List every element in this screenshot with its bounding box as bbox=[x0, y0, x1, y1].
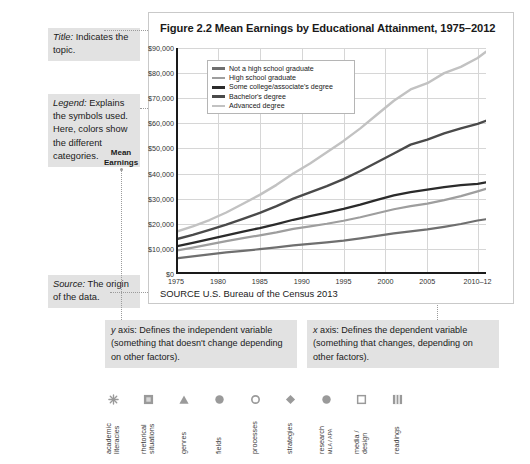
y-axis-tick-labels: $0$10,000$20,000$30,000$40,000$50,000$60… bbox=[136, 48, 174, 274]
y-tick-label: $60,000 bbox=[148, 119, 174, 128]
y-tick-label: $30,000 bbox=[148, 194, 174, 203]
legend-item: Advanced degree bbox=[212, 101, 350, 110]
legend-swatch bbox=[212, 67, 225, 70]
x-tick-label: 1975 bbox=[168, 277, 184, 286]
y-tick-label: $40,000 bbox=[148, 169, 174, 178]
legend-swatch bbox=[212, 77, 225, 80]
leader-dot-y-axis bbox=[120, 168, 123, 171]
y-tick-label: $80,000 bbox=[148, 69, 174, 78]
chart-legend: Not a high school graduateHigh school gr… bbox=[207, 60, 355, 114]
icon-strip: academic literaciesrhetorical situations… bbox=[0, 392, 530, 464]
legend-swatch bbox=[212, 86, 225, 89]
figure-page: Title: Indicates the topic. Legend: Expl… bbox=[0, 0, 530, 464]
x-tick-label: 2010–12 bbox=[464, 277, 492, 286]
legend-swatch bbox=[212, 105, 225, 108]
x-axis-line bbox=[176, 272, 486, 274]
strip-item-label: fields bbox=[215, 408, 223, 454]
leader-title bbox=[104, 30, 154, 31]
definition-x-axis: x axis: Defines the dependent variable (… bbox=[307, 320, 499, 368]
strip-item-label: rhetorical situations bbox=[140, 408, 157, 454]
strip-item-sublabel: MLA / APA bbox=[327, 429, 333, 454]
legend-swatch bbox=[212, 95, 225, 98]
strip-item-label: strategies bbox=[286, 408, 294, 454]
y-tick-label: $20,000 bbox=[148, 219, 174, 228]
strip-item-label: media / design bbox=[353, 408, 370, 454]
annotation-legend-term: Legend: bbox=[53, 98, 87, 108]
x-tick-label: 1980 bbox=[210, 277, 226, 286]
x-tick-label: 2000 bbox=[377, 277, 393, 286]
figure-source: SOURCE U.S. Bureau of the Census 2013 bbox=[160, 288, 338, 299]
definition-x-axis-text: axis: Defines the dependent variable (so… bbox=[313, 325, 473, 362]
leader-y-axis bbox=[121, 170, 122, 322]
y-tick-label: $50,000 bbox=[148, 144, 174, 153]
legend-item: Not a high school graduate bbox=[212, 64, 350, 73]
definition-y-axis: y axis: Defines the independent variable… bbox=[105, 320, 297, 368]
annotation-title: Title: Indicates the topic. bbox=[48, 28, 140, 61]
y-tick-label: $10,000 bbox=[148, 244, 174, 253]
striped-square-icon bbox=[374, 392, 420, 406]
x-tick-label: 1995 bbox=[336, 277, 352, 286]
strip-item-label: academic literacies bbox=[105, 408, 122, 454]
legend-label: High school graduate bbox=[229, 74, 296, 82]
legend-label: Not a high school graduate bbox=[229, 65, 314, 73]
legend-item: Bachelor's degree bbox=[212, 92, 350, 101]
figure-title: Figure 2.2 Mean Earnings by Educational … bbox=[160, 22, 505, 34]
strip-item-label: processes bbox=[251, 408, 259, 454]
legend-label: Bachelor's degree bbox=[229, 93, 286, 101]
y-tick-label: $90,000 bbox=[148, 44, 174, 53]
definition-y-axis-text: axis: Defines the independent variable (… bbox=[111, 325, 283, 362]
strip-item-label: genres bbox=[180, 408, 188, 454]
strip-item-label: readings bbox=[393, 408, 401, 454]
annotation-title-term: Title: bbox=[53, 32, 73, 42]
y-tick-label: $70,000 bbox=[148, 94, 174, 103]
x-tick-label: 1990 bbox=[294, 277, 310, 286]
x-tick-label: 2005 bbox=[419, 277, 435, 286]
x-tick-label: 1985 bbox=[252, 277, 268, 286]
legend-item: High school graduate bbox=[212, 73, 350, 82]
strip-item-readings[interactable]: readings bbox=[374, 392, 420, 458]
legend-item: Some college/associate's degree bbox=[212, 83, 350, 92]
legend-label: Some college/associate's degree bbox=[229, 83, 333, 91]
strip-item-label: research MLA / APA bbox=[318, 408, 335, 454]
y-axis-line bbox=[176, 48, 178, 274]
annotation-source-term: Source: bbox=[53, 279, 85, 289]
series-line bbox=[176, 121, 486, 240]
legend-label: Advanced degree bbox=[229, 102, 285, 110]
strip-item-label-wrap: readings bbox=[374, 406, 420, 458]
